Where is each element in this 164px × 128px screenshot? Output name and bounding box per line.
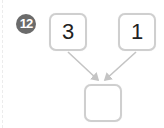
input-box-left: 3 bbox=[49, 13, 87, 51]
input-value-left: 3 bbox=[62, 19, 74, 45]
input-box-right: 1 bbox=[118, 13, 156, 51]
arrow-right-icon bbox=[105, 52, 136, 80]
answer-box[interactable] bbox=[84, 84, 122, 122]
dashed-margin-line bbox=[2, 0, 3, 128]
arrow-left-icon bbox=[68, 52, 98, 80]
problem-number-badge: 12 bbox=[16, 14, 36, 34]
input-value-right: 1 bbox=[131, 19, 143, 45]
